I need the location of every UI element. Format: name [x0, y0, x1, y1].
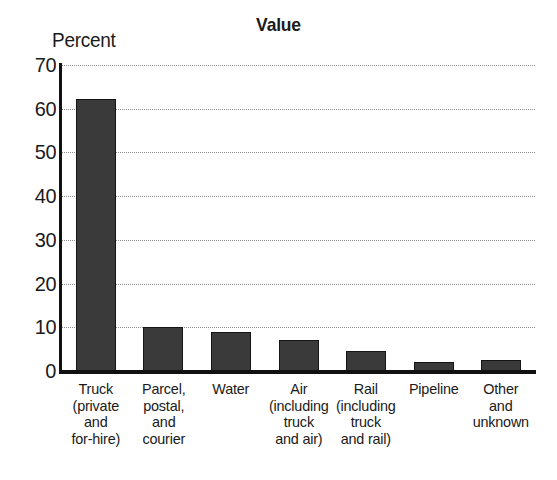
y-axis-tick-label: 40 [12, 185, 56, 206]
gridline [62, 240, 535, 241]
bar[interactable] [211, 332, 251, 371]
y-axis-tick-label: 60 [12, 98, 56, 119]
gridline [62, 284, 535, 285]
x-axis-category-label: Pipeline [397, 381, 470, 398]
plot-area [62, 65, 535, 371]
y-axis-tick-label: 0 [12, 360, 56, 381]
y-axis-tick-labels: 010203040506070 [0, 0, 56, 480]
bar[interactable] [279, 340, 319, 371]
x-axis-category-label: Water [195, 381, 268, 398]
x-axis-category-label: Other and unknown [465, 381, 538, 431]
gridline [62, 327, 535, 328]
x-axis-category-label: Truck (private and for-hire) [60, 381, 133, 447]
bar[interactable] [76, 99, 116, 371]
bar[interactable] [346, 351, 386, 371]
bar-chart: Value Percent 010203040506070 Truck (pri… [0, 0, 557, 480]
gridline [62, 196, 535, 197]
y-axis-title: Percent [52, 29, 115, 52]
x-axis-line [59, 370, 536, 374]
y-axis-tick-label: 10 [12, 316, 56, 337]
x-axis-category-label: Rail (including truck and rail) [330, 381, 403, 447]
bar[interactable] [143, 327, 183, 371]
y-axis-tick-label: 70 [12, 54, 56, 75]
y-axis-tick-label: 50 [12, 141, 56, 162]
y-axis-tick-label: 20 [12, 273, 56, 294]
gridline [62, 109, 535, 110]
x-axis-category-label: Air (including truck and air) [262, 381, 335, 447]
gridline [62, 65, 535, 66]
gridline [62, 152, 535, 153]
x-axis-category-label: Parcel, postal, and courier [127, 381, 200, 447]
y-axis-tick-label: 30 [12, 229, 56, 250]
y-axis-line [59, 63, 62, 373]
